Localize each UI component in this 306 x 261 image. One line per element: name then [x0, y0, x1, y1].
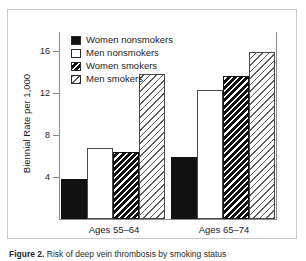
- y-tick-12: [53, 93, 59, 94]
- x-group-label-1: Ages 55–64: [59, 224, 169, 235]
- legend-label-men-smokers: Men smokers: [86, 74, 143, 84]
- plot-right-rule: [276, 32, 277, 220]
- y-axis-title: Biennial Rate per 1,000: [21, 44, 32, 204]
- y-tick-8: [53, 135, 59, 136]
- legend-swatch-solid-black-icon: [71, 36, 81, 45]
- plot-area: 4 8 12 16 Biennial Rate per 1,000 Ages 5…: [8, 10, 298, 240]
- figure-caption-text: Risk of deep vein thrombosis by smoking …: [47, 249, 227, 259]
- bar-ages-55-64-men-smokers: [139, 74, 165, 219]
- chart-legend: Women nonsmokers Men nonsmokers Women sm…: [71, 34, 173, 85]
- x-axis-line: [59, 219, 277, 220]
- figure-caption-label: Figure 2.: [9, 249, 44, 259]
- legend-label-men-nonsmokers: Men nonsmokers: [86, 48, 159, 58]
- bar-ages-55-64-women-nonsmokers: [61, 179, 87, 219]
- legend-label-women-nonsmokers: Women nonsmokers: [86, 35, 173, 45]
- legend-item-men-smokers: Men smokers: [71, 73, 173, 85]
- legend-item-men-nonsmokers: Men nonsmokers: [71, 47, 173, 59]
- y-tick-16: [53, 51, 59, 52]
- legend-swatch-empty-white-icon: [71, 49, 81, 58]
- legend-swatch-dense-hatch-icon: [71, 62, 81, 71]
- legend-label-women-smokers: Women smokers: [86, 61, 157, 71]
- bar-ages-65-74-men-smokers: [249, 52, 275, 219]
- legend-item-women-smokers: Women smokers: [71, 60, 173, 72]
- bar-ages-65-74-women-smokers: [223, 76, 249, 219]
- figure-caption: Figure 2. Risk of deep vein thrombosis b…: [9, 249, 299, 261]
- y-axis-line: [59, 32, 60, 220]
- y-tick-4: [53, 177, 59, 178]
- x-group-label-2: Ages 65–74: [169, 224, 279, 235]
- bar-ages-55-64-men-nonsmokers: [87, 148, 113, 219]
- bar-ages-65-74-women-nonsmokers: [171, 157, 197, 219]
- legend-swatch-light-hatch-icon: [71, 75, 81, 84]
- legend-item-women-nonsmokers: Women nonsmokers: [71, 34, 173, 46]
- figure-root: 4 8 12 16 Biennial Rate per 1,000 Ages 5…: [0, 0, 306, 261]
- chart-panel: 4 8 12 16 Biennial Rate per 1,000 Ages 5…: [7, 9, 297, 239]
- bar-ages-55-64-women-smokers: [113, 152, 139, 219]
- bar-ages-65-74-men-nonsmokers: [197, 90, 223, 219]
